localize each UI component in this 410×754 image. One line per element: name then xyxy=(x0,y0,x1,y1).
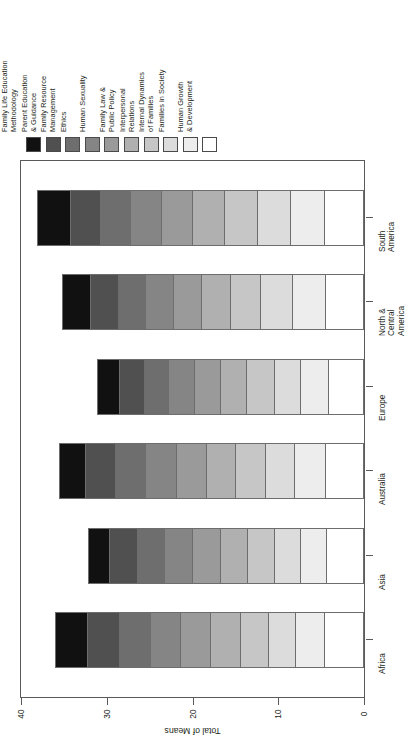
category-label: South America xyxy=(378,182,408,252)
bar-segment xyxy=(97,359,120,415)
bar-segment xyxy=(120,359,145,415)
bar-segment xyxy=(145,359,170,415)
chart-legend: Family Life Education MethodologyParent … xyxy=(0,0,410,152)
bar-segment xyxy=(293,274,326,330)
stacked-bar xyxy=(37,190,364,246)
bar-segment xyxy=(296,612,325,668)
bar-segment xyxy=(207,443,236,499)
bar-segment xyxy=(266,443,295,499)
bar-segment xyxy=(151,612,182,668)
stacked-bar xyxy=(59,443,364,499)
bar-segment xyxy=(162,190,194,246)
bar-segment xyxy=(177,443,207,499)
category-label: Asia xyxy=(378,520,408,590)
category-label: Australia xyxy=(378,435,408,505)
legend-swatch xyxy=(85,137,100,152)
legend-swatch xyxy=(163,137,178,152)
bar-segment xyxy=(88,612,120,668)
category-tick xyxy=(366,217,373,218)
bar-segment xyxy=(62,274,91,330)
category-label: Europe xyxy=(378,351,408,421)
bar-segment xyxy=(202,274,231,330)
bar-segment xyxy=(241,612,269,668)
bar-segment xyxy=(261,274,293,330)
legend-label: Human Growth & Development xyxy=(176,2,200,132)
bar-segment xyxy=(275,359,302,415)
chart-figure: Family Life Education MethodologyParent … xyxy=(0,0,410,754)
bar-segment xyxy=(88,528,110,584)
bar-segment xyxy=(165,528,193,584)
bar-segment xyxy=(291,190,325,246)
stacked-bar xyxy=(62,274,364,330)
axis-title: Total of Means xyxy=(20,722,365,736)
bar-segment xyxy=(269,612,296,668)
bar-segment xyxy=(101,190,131,246)
bar-segment xyxy=(221,359,248,415)
bar-row xyxy=(21,190,364,246)
bar-segment xyxy=(116,443,146,499)
category-tick xyxy=(366,639,373,640)
bar-segment xyxy=(258,190,291,246)
legend-swatch xyxy=(124,137,139,152)
bar-segment xyxy=(211,612,240,668)
category-tick xyxy=(366,386,373,387)
legend-swatch xyxy=(202,137,217,152)
bar-segment xyxy=(59,443,86,499)
bar-segment xyxy=(193,528,220,584)
bar-segment xyxy=(275,528,301,584)
bar-segment xyxy=(326,443,364,499)
bar-segment xyxy=(181,612,211,668)
legend-swatch xyxy=(183,137,198,152)
bar-segment xyxy=(174,274,202,330)
bar-segment xyxy=(248,528,275,584)
bar-segment xyxy=(193,190,225,246)
bar-row xyxy=(21,359,364,415)
bar-segment xyxy=(195,359,221,415)
bar-row xyxy=(21,528,364,584)
bar-segment xyxy=(295,443,326,499)
bar-segment xyxy=(86,443,116,499)
stacked-bar xyxy=(88,528,364,584)
bar-segment xyxy=(110,528,137,584)
bar-segment xyxy=(146,274,173,330)
bar-segment xyxy=(37,190,70,246)
stacked-bar xyxy=(55,612,364,668)
bar-segment xyxy=(231,274,261,330)
bar-segment xyxy=(169,359,195,415)
legend-swatch xyxy=(46,137,61,152)
plot-area xyxy=(20,160,365,698)
legend-swatch xyxy=(104,137,119,152)
bar-row xyxy=(21,612,364,668)
bar-segment xyxy=(225,190,258,246)
bar-segment xyxy=(301,359,328,415)
category-label: North & Central America xyxy=(378,266,408,336)
legend-swatch xyxy=(144,137,159,152)
category-axis: AfricaAsiaAustraliaEuropeNorth & Central… xyxy=(366,160,410,698)
bar-row xyxy=(21,443,364,499)
bar-segment xyxy=(221,528,248,584)
bar-segment xyxy=(301,528,328,584)
bar-segment xyxy=(236,443,266,499)
bar-segment xyxy=(91,274,118,330)
bar-segment xyxy=(247,359,274,415)
category-label: Africa xyxy=(378,604,408,674)
bar-row xyxy=(21,274,364,330)
bar-segment xyxy=(326,274,364,330)
bar-segment xyxy=(120,612,151,668)
legend-swatch xyxy=(26,137,41,152)
bar-segment xyxy=(329,359,364,415)
category-tick xyxy=(366,470,373,471)
category-tick xyxy=(366,555,373,556)
bar-segment xyxy=(325,612,364,668)
stacked-bar xyxy=(97,359,364,415)
bar-segment xyxy=(119,274,146,330)
category-tick xyxy=(366,301,373,302)
bar-segment xyxy=(131,190,162,246)
bar-segment xyxy=(138,528,165,584)
bar-segment xyxy=(325,190,364,246)
legend-swatch xyxy=(65,137,80,152)
bar-segment xyxy=(327,528,364,584)
bar-segment xyxy=(146,443,177,499)
bar-segment xyxy=(71,190,101,246)
legend-item: Human Growth & Development xyxy=(200,0,224,152)
